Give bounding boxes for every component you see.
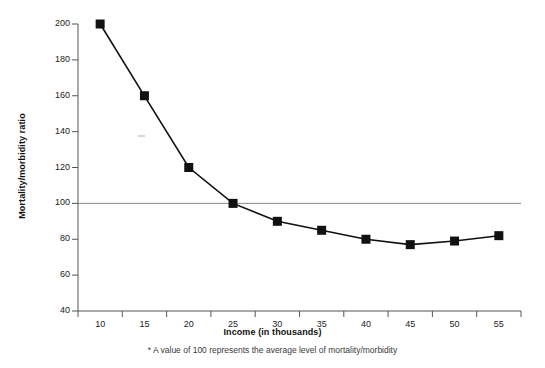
data-point-marker	[494, 231, 503, 240]
data-point-marker	[96, 20, 105, 29]
y-tick-label: 80	[38, 233, 70, 243]
y-axis-title: Mortality/morbidity ratio	[17, 113, 27, 219]
data-line	[100, 24, 499, 245]
data-point-marker	[140, 91, 149, 100]
data-point-marker	[184, 163, 193, 172]
y-axis-title-container: Mortality/morbidity ratio	[14, 96, 30, 236]
y-tick-label: 140	[38, 126, 70, 136]
data-point-marker	[229, 199, 238, 208]
data-point-marker	[317, 226, 326, 235]
y-tick-label: 60	[38, 269, 70, 279]
data-point-marker	[361, 235, 370, 244]
data-point-marker	[450, 237, 459, 246]
y-tick-label: 100	[38, 197, 70, 207]
plot-area	[0, 0, 545, 368]
y-axis-ticks	[72, 24, 78, 311]
x-axis-title: Income (in thousands)	[0, 327, 545, 337]
data-markers	[96, 20, 504, 250]
x-axis-ticks	[78, 311, 521, 317]
mortality-morbidity-chart: Mortality/morbidity ratio 40608010012014…	[0, 0, 545, 368]
y-tick-label: 180	[38, 54, 70, 64]
y-tick-label: 40	[38, 305, 70, 315]
chart-footnote: * A value of 100 represents the average …	[0, 345, 545, 355]
y-tick-label: 120	[38, 162, 70, 172]
y-tick-label: 160	[38, 90, 70, 100]
data-point-marker	[273, 217, 282, 226]
y-tick-label: 200	[38, 18, 70, 28]
data-point-marker	[406, 240, 415, 249]
